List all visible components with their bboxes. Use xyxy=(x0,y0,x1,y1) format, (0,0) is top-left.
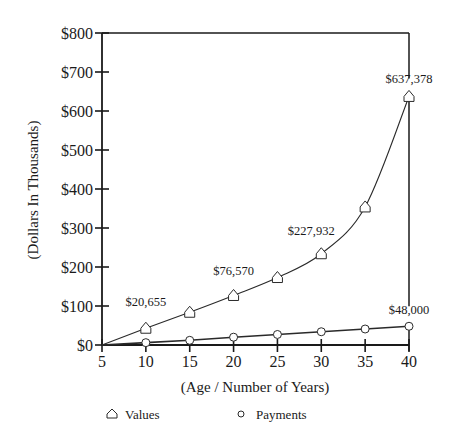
x-tick-label: 5 xyxy=(98,353,106,370)
house-triangle-marker xyxy=(316,248,326,259)
data-label: $227,932 xyxy=(288,224,335,238)
circle-marker xyxy=(230,333,238,341)
y-tick-label: $600 xyxy=(61,103,93,120)
line-chart: $0$100$200$300$400$500$600$700$800 51015… xyxy=(0,0,454,447)
house-triangle-marker xyxy=(404,90,414,101)
house-triangle-marker xyxy=(141,322,151,333)
legend-item-values: Values xyxy=(107,407,160,422)
house-triangle-marker xyxy=(185,306,195,317)
x-axis-title: (Age / Number of Years) xyxy=(181,379,330,396)
y-tick-label: $300 xyxy=(61,220,93,237)
circle-marker xyxy=(361,325,369,333)
circle-marker xyxy=(405,322,413,330)
circle-marker xyxy=(186,336,194,344)
y-tick-label: $500 xyxy=(61,142,93,159)
y-axis-title: (Dollars In Thousands) xyxy=(25,121,42,260)
circle-marker xyxy=(317,328,325,336)
house-triangle-marker xyxy=(272,272,282,283)
legend-label-values: Values xyxy=(125,407,160,422)
y-tick-label: $800 xyxy=(61,25,93,42)
y-tick-label: $400 xyxy=(61,181,93,198)
circle-icon xyxy=(238,411,244,417)
circle-marker xyxy=(273,330,281,338)
circle-marker xyxy=(142,339,150,347)
y-tick-label: $100 xyxy=(61,298,93,315)
house-triangle-marker xyxy=(360,201,370,212)
series-markers xyxy=(141,90,414,346)
x-tick-label: 40 xyxy=(401,353,417,370)
x-tick-label: 25 xyxy=(269,353,285,370)
data-label: $637,378 xyxy=(386,72,433,86)
data-label: $20,655 xyxy=(126,295,167,309)
y-tick-label: $700 xyxy=(61,64,93,81)
legend: Values Payments xyxy=(107,407,307,422)
x-tick-label: 20 xyxy=(226,353,242,370)
x-tick-label: 10 xyxy=(138,353,154,370)
x-tick-label: 35 xyxy=(357,353,373,370)
data-label: $76,570 xyxy=(213,264,254,278)
y-tick-label: $200 xyxy=(61,259,93,276)
x-tick-label: 30 xyxy=(313,353,329,370)
y-tick-label: $0 xyxy=(77,337,93,354)
house-triangle-icon xyxy=(107,409,117,418)
legend-label-payments: Payments xyxy=(256,407,307,422)
legend-item-payments: Payments xyxy=(238,407,307,422)
x-tick-label: 15 xyxy=(182,353,198,370)
house-triangle-marker xyxy=(229,289,239,300)
data-label: $48,000 xyxy=(389,303,430,317)
